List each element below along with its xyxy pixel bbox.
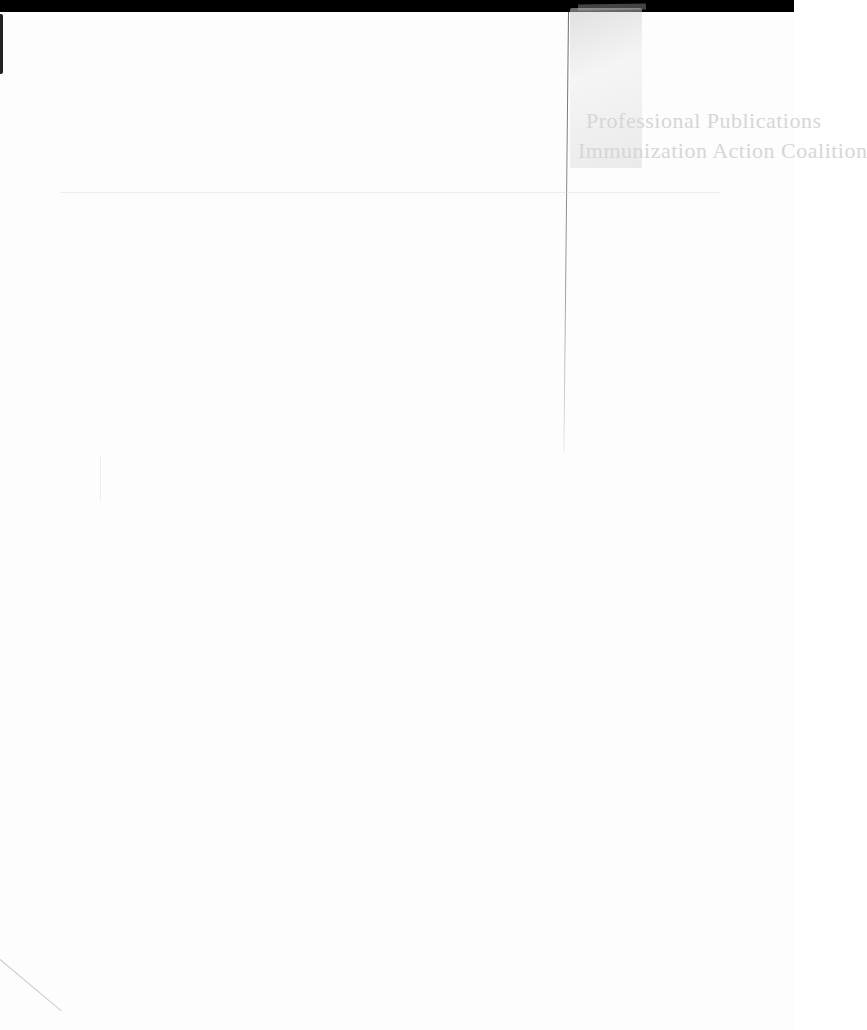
faint-rule	[60, 192, 720, 193]
heading-line-2: Immunization Action Coalition	[578, 136, 867, 166]
document-heading: Professional Publications Immunization A…	[586, 106, 867, 166]
page-edge-mark	[0, 14, 3, 74]
heading-line-1: Professional Publications	[586, 106, 867, 136]
scan-top-border	[0, 0, 794, 12]
faint-mark	[100, 455, 101, 500]
